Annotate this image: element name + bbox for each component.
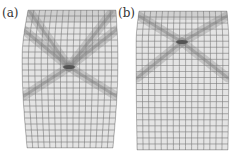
shear-band-crossing-b [176,40,188,44]
shear-band-crossing-a [63,65,75,69]
mesh-body-b [136,11,229,150]
panel-label-a: (a) [2,7,19,19]
figure: (a) (b) [0,0,243,159]
panel-label-b: (b) [118,7,135,19]
mesh-figure-canvas [0,0,243,159]
